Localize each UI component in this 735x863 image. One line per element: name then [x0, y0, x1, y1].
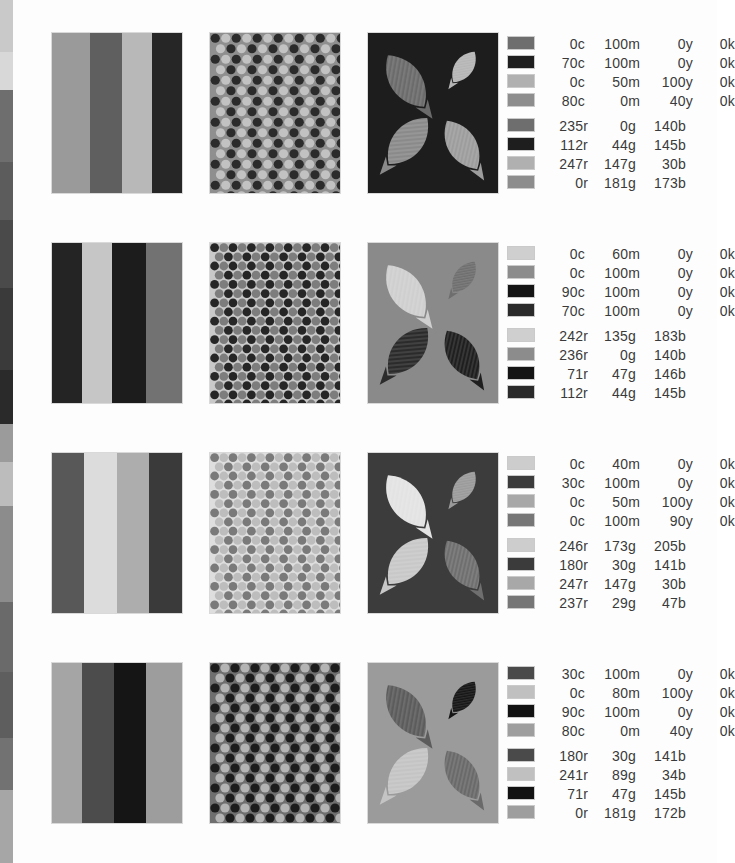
rgb-g-value: 0g	[588, 118, 636, 134]
rgb-r-value: 71r	[536, 786, 588, 802]
stripe-band	[82, 243, 112, 403]
cmyk-k-value: 0k	[693, 265, 735, 281]
edge-slice	[0, 790, 13, 863]
color-chip	[508, 176, 534, 188]
cmyk-y-value: 0y	[640, 704, 693, 720]
edge-slice	[0, 672, 13, 738]
cmyk-k-value: 0k	[693, 284, 735, 300]
edge-slice	[0, 602, 13, 672]
rgb-g-value: 29g	[588, 595, 636, 611]
color-chip	[508, 724, 534, 736]
rgb-values-group: 180r30g141b241r89g34b71r47g145b0r181g172…	[508, 748, 717, 824]
stripe-panel	[52, 663, 182, 823]
color-chip	[508, 476, 534, 488]
cmyk-y-value: 0y	[640, 265, 693, 281]
rgb-g-value: 0g	[588, 347, 636, 363]
rgb-b-value: 145b	[636, 385, 686, 401]
edge-slice	[0, 162, 13, 220]
cmyk-m-value: 100m	[585, 36, 640, 52]
cmyk-legend-row: 80c0m40y0k	[508, 723, 717, 739]
rgb-r-value: 246r	[536, 538, 588, 554]
rgb-r-value: 180r	[536, 557, 588, 573]
rgb-legend-row: 235r0g140b	[508, 118, 717, 134]
edge-slice	[0, 370, 13, 424]
rgb-legend-row: 246r173g205b	[508, 538, 717, 554]
cmyk-k-value: 0k	[693, 475, 735, 491]
rgb-legend-row: 112r44g145b	[508, 137, 717, 153]
cmyk-y-value: 90y	[640, 513, 693, 529]
cmyk-y-value: 100y	[640, 494, 693, 510]
cmyk-legend-row: 0c60m0y0k	[508, 246, 717, 262]
color-chip	[508, 157, 534, 169]
rgb-g-value: 30g	[588, 748, 636, 764]
rgb-legend-row: 71r47g146b	[508, 366, 717, 382]
rgb-legend-row: 242r135g183b	[508, 328, 717, 344]
color-chip	[508, 667, 534, 679]
stripe-band	[84, 453, 117, 613]
stripe-band	[52, 663, 82, 823]
cmyk-k-value: 0k	[693, 666, 735, 682]
cmyk-k-value: 0k	[693, 704, 735, 720]
stripe-panel	[52, 453, 182, 613]
edge-slice	[0, 90, 13, 162]
leaf-pattern-panel	[368, 243, 498, 403]
rgb-g-value: 147g	[588, 156, 636, 172]
leaf-pattern-panel	[368, 663, 498, 823]
cmyk-m-value: 0m	[585, 93, 640, 109]
cmyk-c-value: 0c	[536, 685, 585, 701]
rgb-r-value: 0r	[536, 175, 588, 191]
color-chip	[508, 514, 534, 526]
color-chip	[508, 37, 534, 49]
rgb-values-group: 246r173g205b180r30g141b247r147g30b237r29…	[508, 538, 717, 614]
swatch-row-3: 0c40m0y0k30c100m0y0k0c50m100y0k0c100m90y…	[13, 453, 717, 613]
color-chip	[508, 285, 534, 297]
color-chip	[508, 686, 534, 698]
cmyk-k-value: 0k	[693, 93, 735, 109]
stripe-band	[122, 33, 152, 193]
stripe-band	[52, 453, 84, 613]
color-chip	[508, 705, 534, 717]
color-chip	[508, 596, 534, 608]
cmyk-k-value: 0k	[693, 74, 735, 90]
color-legend: 0c40m0y0k30c100m0y0k0c50m100y0k0c100m90y…	[508, 453, 717, 613]
cmyk-c-value: 0c	[536, 513, 585, 529]
rgb-r-value: 235r	[536, 118, 588, 134]
cmyk-c-value: 0c	[536, 265, 585, 281]
cmyk-legend-row: 0c50m100y0k	[508, 74, 717, 90]
halftone-dot-panel	[210, 453, 340, 613]
cmyk-c-value: 90c	[536, 704, 585, 720]
cmyk-y-value: 0y	[640, 666, 693, 682]
stripe-band	[52, 243, 82, 403]
cmyk-c-value: 0c	[536, 36, 585, 52]
stripe-band	[146, 243, 182, 403]
cmyk-m-value: 100m	[585, 55, 640, 71]
rgb-values-group: 235r0g140b112r44g145b247r147g30b0r181g17…	[508, 118, 717, 194]
cmyk-k-value: 0k	[693, 55, 735, 71]
cmyk-values-group: 0c40m0y0k30c100m0y0k0c50m100y0k0c100m90y…	[508, 456, 717, 532]
swatch-row-2: 0c60m0y0k0c100m0y0k90c100m0y0k70c100m0y0…	[13, 243, 717, 403]
cmyk-c-value: 80c	[536, 723, 585, 739]
edge-slice	[0, 220, 13, 288]
rgb-g-value: 47g	[588, 366, 636, 382]
cmyk-y-value: 0y	[640, 284, 693, 300]
rgb-b-value: 145b	[636, 786, 686, 802]
color-chip	[508, 247, 534, 259]
cmyk-y-value: 0y	[640, 303, 693, 319]
cmyk-c-value: 70c	[536, 303, 585, 319]
rgb-legend-row: 0r181g173b	[508, 175, 717, 191]
cmyk-c-value: 0c	[536, 74, 585, 90]
rgb-legend-row: 236r0g140b	[508, 347, 717, 363]
rgb-b-value: 140b	[636, 347, 686, 363]
color-chip	[508, 94, 534, 106]
rgb-r-value: 242r	[536, 328, 588, 344]
color-chip	[508, 138, 534, 150]
rgb-b-value: 141b	[636, 557, 686, 573]
cmyk-legend-row: 80c0m40y0k	[508, 93, 717, 109]
color-chip	[508, 348, 534, 360]
rgb-b-value: 47b	[636, 595, 686, 611]
color-chip	[508, 119, 534, 131]
rgb-b-value: 205b	[636, 538, 686, 554]
color-chip	[508, 304, 534, 316]
cmyk-legend-row: 70c100m0y0k	[508, 303, 717, 319]
rgb-g-value: 181g	[588, 175, 636, 191]
